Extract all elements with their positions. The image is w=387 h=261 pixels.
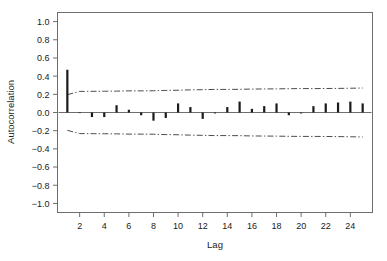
- acf-bar: [128, 110, 130, 113]
- acf-bar: [325, 103, 327, 112]
- acf-bar: [165, 113, 167, 118]
- y-tick-label: 0.8: [37, 35, 50, 45]
- x-tick-label: 14: [222, 221, 232, 231]
- y-tick-label: −1.0: [32, 199, 50, 209]
- acf-bar: [177, 103, 179, 112]
- x-tick-label: 4: [102, 221, 107, 231]
- y-axis-label: Autocorrelation: [5, 80, 16, 144]
- acf-bar: [312, 106, 314, 112]
- x-tick-label: 2: [77, 221, 82, 231]
- y-tick-label: 0.6: [37, 53, 50, 63]
- x-tick-label: 10: [173, 221, 183, 231]
- x-tick-label: 8: [151, 221, 156, 231]
- acf-bar: [189, 107, 191, 112]
- y-tick-label: 0.0: [37, 108, 50, 118]
- acf-bar: [202, 113, 204, 119]
- y-tick-label: 0.4: [37, 72, 50, 82]
- acf-bar: [251, 109, 253, 113]
- acf-bar: [103, 113, 105, 118]
- acf-bar: [275, 103, 277, 112]
- x-tick-label: 6: [126, 221, 131, 231]
- y-tick-label: −0.4: [32, 144, 50, 154]
- acf-bar: [239, 102, 241, 113]
- acf-bar: [226, 107, 228, 112]
- y-tick-label: −0.6: [32, 162, 50, 172]
- autocorrelation-chart: 1.00.80.60.40.20.0−0.2−0.4−0.6−0.8−1.0 2…: [0, 0, 387, 261]
- acf-bar: [300, 113, 302, 114]
- acf-bar: [349, 102, 351, 113]
- y-tick-label: 0.2: [37, 90, 50, 100]
- x-tick-label: 18: [272, 221, 282, 231]
- x-axis-label: Lag: [207, 239, 223, 250]
- acf-bar: [152, 113, 154, 121]
- acf-bar: [337, 103, 339, 113]
- x-tick-label: 22: [321, 221, 331, 231]
- x-tick-label: 12: [198, 221, 208, 231]
- y-tick-label: −0.2: [32, 126, 50, 136]
- acf-bar: [115, 105, 117, 112]
- y-tick-label: −0.8: [32, 181, 50, 191]
- x-tick-label: 24: [345, 221, 355, 231]
- acf-bar: [288, 113, 290, 116]
- acf-bar: [140, 113, 142, 116]
- acf-bar: [263, 106, 265, 112]
- y-tick-label: 1.0: [37, 17, 50, 27]
- acf-bar: [66, 70, 68, 113]
- acf-bar: [79, 113, 81, 114]
- x-tick-label: 16: [247, 221, 257, 231]
- acf-bar: [91, 113, 93, 118]
- acf-bar: [362, 103, 364, 112]
- x-tick-label: 20: [296, 221, 306, 231]
- acf-plot-canvas: 1.00.80.60.40.20.0−0.2−0.4−0.6−0.8−1.0 2…: [0, 0, 387, 261]
- acf-bar: [214, 113, 216, 114]
